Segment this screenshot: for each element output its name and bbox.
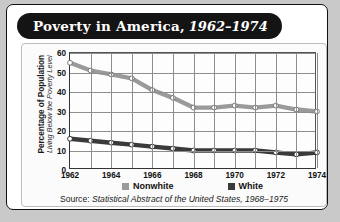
- data-point-marker: [68, 136, 73, 141]
- chart-panel: Percentage of Population Living Below th…: [21, 43, 327, 207]
- y-axis-tick-label: 10: [57, 146, 66, 155]
- y-axis-tick-label: 20: [57, 127, 66, 136]
- gridline-vertical: [317, 53, 318, 168]
- y-axis-tick-label: 60: [57, 49, 66, 58]
- gridline-vertical: [296, 53, 297, 168]
- gridline-vertical: [173, 53, 174, 168]
- y-axis-tick-label: 30: [57, 107, 66, 116]
- gridline-vertical: [276, 53, 277, 168]
- gridline-horizontal: [70, 151, 315, 152]
- legend-label-nonwhite: Nonwhite: [133, 181, 174, 191]
- legend-swatch-nonwhite: [122, 183, 129, 190]
- legend-swatch-white: [228, 183, 235, 190]
- page-title: Poverty in America,: [33, 18, 185, 34]
- gridline-horizontal: [70, 73, 315, 74]
- y-axis-caption-primary: Percentage of Population: [37, 43, 46, 165]
- gridline-vertical: [194, 53, 195, 168]
- x-axis-tick-label: 1968: [184, 171, 202, 180]
- title-year-range: 1962–1974: [189, 19, 268, 34]
- figure-card: Poverty in America, 1962–1974 Percentage…: [6, 4, 328, 210]
- gridline-horizontal: [70, 53, 315, 54]
- x-axis-tick-label: 1964: [102, 171, 120, 180]
- source-prefix: Source:: [60, 194, 92, 204]
- plot-area: 0102030405060196219641966196819701972197…: [69, 52, 316, 169]
- source-citation: Statistical Abstract of the United State…: [92, 194, 288, 204]
- gridline-vertical: [152, 53, 153, 168]
- x-axis-tick-label: 1974: [308, 171, 326, 180]
- y-axis-caption: Percentage of Population Living Below th…: [37, 43, 54, 165]
- gridline-horizontal: [70, 131, 315, 132]
- legend-item-nonwhite: Nonwhite: [122, 181, 174, 191]
- x-axis-tick-label: 1966: [143, 171, 161, 180]
- gridline-vertical: [132, 53, 133, 168]
- y-axis-caption-secondary: Living Below the Poverty Level: [46, 43, 54, 165]
- figure-title-banner: Poverty in America, 1962–1974: [17, 13, 282, 39]
- legend-label-white: White: [239, 181, 264, 191]
- gridline-vertical: [91, 53, 92, 168]
- legend-item-white: White: [228, 181, 264, 191]
- gridline-vertical: [111, 53, 112, 168]
- gridline-vertical: [255, 53, 256, 168]
- chart-legend: Nonwhite White: [69, 181, 316, 191]
- x-axis-tick-label: 1972: [267, 171, 285, 180]
- gridline-horizontal: [70, 92, 315, 93]
- data-point-marker: [68, 60, 73, 65]
- y-axis-tick-label: 50: [57, 68, 66, 77]
- y-axis-tick-label: 40: [57, 88, 66, 97]
- gridline-vertical: [214, 53, 215, 168]
- gridline-horizontal: [70, 112, 315, 113]
- chart-figure: Poverty in America, 1962–1974 Percentage…: [0, 0, 340, 222]
- gridline-vertical: [235, 53, 236, 168]
- x-axis-tick-label: 1970: [226, 171, 244, 180]
- x-axis-tick-label: 1962: [61, 171, 79, 180]
- source-note: Source: Statistical Abstract of the Unit…: [22, 194, 326, 204]
